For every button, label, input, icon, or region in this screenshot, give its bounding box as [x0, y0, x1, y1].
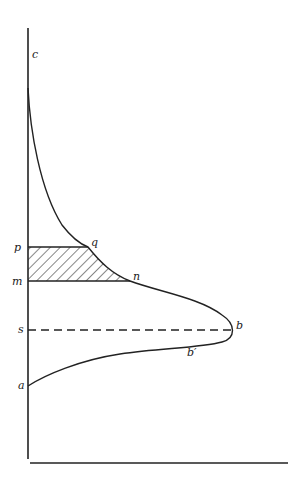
label-b-prime: b′ — [187, 346, 197, 359]
label-n: n — [133, 270, 140, 283]
label-q: q — [91, 236, 98, 249]
label-c: c — [32, 48, 38, 61]
diagram-canvas: c p q m n s b b′ a — [0, 0, 302, 491]
label-p: p — [14, 241, 21, 254]
label-b: b — [236, 319, 243, 332]
hatched-region — [28, 247, 138, 281]
label-s: s — [18, 323, 24, 336]
distribution-curve — [28, 88, 233, 386]
label-a: a — [18, 379, 25, 392]
label-m: m — [12, 275, 22, 288]
